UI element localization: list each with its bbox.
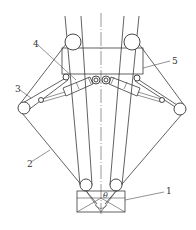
outer-pulley-right [174, 103, 186, 115]
angle-theta: θ [103, 191, 108, 200]
frame-pivot-right [134, 75, 140, 81]
label-2: 2 [27, 159, 33, 169]
outer-pulley-left [18, 102, 30, 114]
label-1: 1 [166, 186, 172, 196]
top-pulley-right [124, 34, 140, 50]
bottom-pulley-right [110, 179, 122, 191]
bottom-pulley-left [80, 179, 92, 191]
support-arms [21, 79, 183, 112]
outer-cable [20, 44, 184, 204]
rod-end-right [160, 98, 165, 103]
frame-pivot-left [63, 74, 69, 80]
top-pulley-left [65, 34, 81, 50]
label-5: 5 [172, 56, 178, 66]
label-3: 3 [15, 84, 21, 94]
rod-end-left [39, 98, 44, 103]
top-frame [62, 48, 143, 74]
leader-lines [20, 45, 170, 200]
mechanism-diagram: θ 1 2 3 4 5 [0, 0, 196, 230]
label-4: 4 [33, 39, 39, 49]
